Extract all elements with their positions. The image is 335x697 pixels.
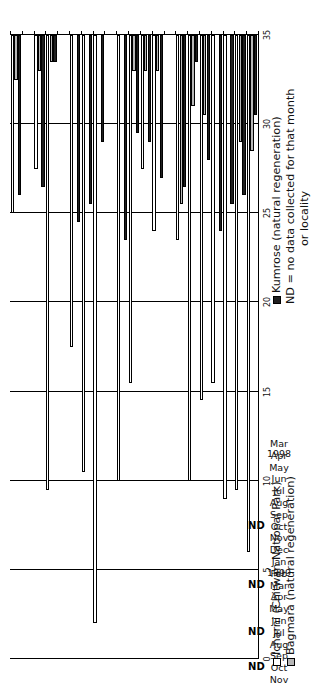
legend-note-line1: ND = no data collected for that month	[284, 89, 297, 304]
chart-legend: Icharni (Chitwan National Park)Bagmara (…	[0, 0, 335, 697]
legend-entry-bagmara-text: Bagmara (natural regeneration)	[284, 476, 297, 655]
legend-entry-bagmara: Bagmara (natural regeneration)	[284, 476, 297, 666]
legend-entry-icharni: Icharni (Chitwan National Park)	[270, 481, 283, 666]
legend-entry-icharni-text: Icharni (Chitwan National Park)	[270, 481, 283, 655]
legend-entry-kumrose: Kumrose (natural regeneration)	[270, 116, 283, 304]
legend-swatch-grey	[287, 658, 295, 666]
legend-swatch-black	[273, 296, 281, 304]
legend-swatch-white	[273, 658, 281, 666]
legend-note-line1-text: ND = no data collected for that month	[284, 89, 297, 304]
legend-note-line2-text: or locality	[298, 191, 311, 246]
chart-figure: 05101520253035 Mar1998AprMayJunJulAugSep…	[0, 0, 335, 697]
legend-entry-kumrose-text: Kumrose (natural regeneration)	[270, 116, 283, 293]
legend-note-line2: or locality	[298, 191, 311, 246]
